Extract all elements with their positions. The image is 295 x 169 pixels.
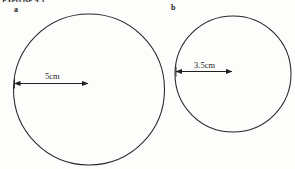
radius-label-b: 3.5cm bbox=[194, 61, 215, 70]
circle-a bbox=[14, 14, 165, 165]
geometry-diagram bbox=[0, 0, 295, 169]
radius-label-a: 5cm bbox=[45, 72, 60, 81]
circle-b bbox=[175, 16, 291, 132]
worksheet-figure-page: Exercise 9.1 a b 5cm 3.5cm bbox=[0, 0, 295, 169]
